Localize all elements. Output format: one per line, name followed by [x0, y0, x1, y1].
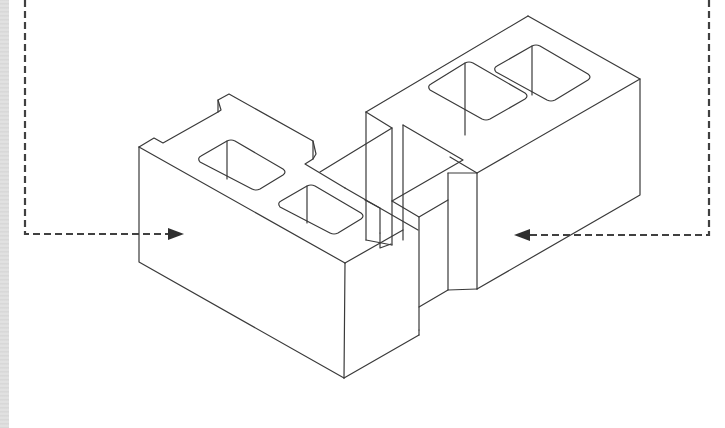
right-leader-arrow	[514, 0, 709, 241]
left-leader-arrow	[25, 0, 184, 240]
right-block-core-2	[495, 45, 590, 101]
left-block-core-2	[279, 185, 363, 234]
block-diagram	[0, 0, 725, 428]
right-block-core-1	[429, 62, 527, 135]
right-block	[320, 16, 640, 330]
left-block-core-1	[199, 140, 285, 190]
